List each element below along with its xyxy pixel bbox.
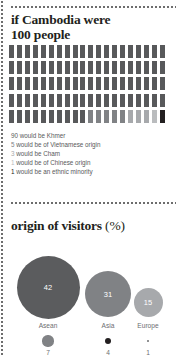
visitors-section-title: origin of visitors (%) (11, 218, 171, 233)
person-icon-khmer (65, 77, 70, 90)
bubble-category-label: Europe (108, 322, 176, 329)
person-icon-khmer (73, 45, 78, 58)
person-icon-khmer (152, 61, 157, 74)
person-icon-khmer (160, 45, 165, 58)
person-icon-khmer (112, 61, 117, 74)
person-icon-cham (136, 110, 141, 123)
person-icon-khmer (136, 45, 141, 58)
person-icon-khmer (17, 110, 22, 123)
infographic-page: if Cambodia were 100 people 90 would be … (0, 0, 176, 355)
page-title: if Cambodia were 100 people (11, 13, 161, 42)
person-icon-khmer (25, 61, 30, 74)
person-icon-khmer (65, 45, 70, 58)
page-title-line-2: 100 people (11, 28, 161, 43)
person-icon-khmer (73, 110, 78, 123)
person-icon-khmer (33, 61, 38, 74)
bubble-value-label: 42 (44, 283, 52, 292)
person-icon-khmer (120, 77, 125, 90)
person-icon-khmer (49, 94, 54, 107)
person-icon-khmer (25, 110, 30, 123)
person-icon-vietnamese-origin (104, 110, 109, 123)
person-icon-khmer (65, 110, 70, 123)
top-dotted-rule (10, 6, 176, 8)
pictogram-legend: 90 would be Khmer5 would be of Vietnames… (11, 131, 171, 176)
person-icon-khmer (80, 94, 85, 107)
person-icon-khmer (88, 45, 93, 58)
person-icon-khmer (120, 94, 125, 107)
small-bubble-value-label: 1 (108, 349, 176, 355)
person-icon-khmer (96, 77, 101, 90)
legend-item-label: would be Cham (15, 150, 61, 157)
person-icon-khmer (57, 61, 62, 74)
legend-item-label: would be an ethnic minority (15, 168, 93, 175)
person-icon-khmer (65, 61, 70, 74)
legend-item: 1 would be an ethnic minority (11, 167, 171, 176)
person-icon-khmer (160, 77, 165, 90)
person-icon-chinese-origin (152, 110, 157, 123)
person-icon-cham (144, 110, 149, 123)
person-icon-khmer (49, 61, 54, 74)
person-icon-khmer (73, 77, 78, 90)
person-icon-khmer (160, 94, 165, 107)
person-icon-khmer (88, 94, 93, 107)
person-icon-khmer (144, 94, 149, 107)
person-icon-khmer (152, 77, 157, 90)
person-icon-khmer (57, 110, 62, 123)
person-icon-khmer (73, 94, 78, 107)
legend-item-label: would be of Chinese origin (15, 159, 91, 166)
person-icon-khmer (41, 110, 46, 123)
person-icon-khmer (57, 77, 62, 90)
person-icon-khmer (80, 77, 85, 90)
person-icon-khmer (136, 94, 141, 107)
person-icon-khmer (128, 77, 133, 90)
person-icon-khmer (104, 61, 109, 74)
bubble-europe: 15 (134, 288, 163, 317)
person-icon-khmer (17, 94, 22, 107)
person-icon-cham (128, 110, 133, 123)
person-icon-khmer (41, 77, 46, 90)
person-icon-khmer (49, 110, 54, 123)
person-icon-khmer (80, 61, 85, 74)
person-icon-khmer (33, 77, 38, 90)
person-icon-khmer (120, 61, 125, 74)
person-icon-khmer (73, 61, 78, 74)
person-icon-khmer (96, 45, 101, 58)
person-icon-khmer (88, 61, 93, 74)
person-icon-khmer (9, 77, 14, 90)
bubble-value-label: 15 (144, 298, 152, 307)
visitors-title-unit: (%) (105, 218, 125, 233)
person-icon-ethnic-minority (160, 110, 165, 123)
person-icon-khmer (17, 77, 22, 90)
bubble-value-7 (42, 335, 53, 346)
person-icon-khmer (33, 110, 38, 123)
person-icon-khmer (112, 77, 117, 90)
person-icon-khmer (104, 77, 109, 90)
legend-item-number: 90 (11, 132, 18, 139)
person-icon-khmer (9, 94, 14, 107)
person-icon-khmer (160, 61, 165, 74)
person-icon-khmer (57, 94, 62, 107)
person-icon-khmer (9, 61, 14, 74)
person-icon-vietnamese-origin (88, 110, 93, 123)
legend-item: 3 would be Cham (11, 149, 171, 158)
page-title-line-1: if Cambodia were (11, 13, 161, 28)
person-icon-khmer (41, 94, 46, 107)
person-icon-vietnamese-origin (112, 110, 117, 123)
person-icon-vietnamese-origin (96, 110, 101, 123)
pictogram-grid (9, 45, 169, 126)
person-icon-khmer (96, 94, 101, 107)
visitors-title-text: origin of visitors (11, 218, 102, 233)
person-icon-khmer (17, 45, 22, 58)
person-icon-khmer (152, 94, 157, 107)
person-icon-khmer (25, 94, 30, 107)
person-icon-khmer (49, 45, 54, 58)
person-icon-khmer (41, 45, 46, 58)
person-icon-khmer (104, 94, 109, 107)
person-icon-khmer (49, 77, 54, 90)
person-icon-khmer (128, 61, 133, 74)
person-icon-khmer (57, 45, 62, 58)
person-icon-khmer (128, 94, 133, 107)
bubble-value-1 (147, 340, 149, 342)
person-icon-khmer (152, 45, 157, 58)
person-icon-khmer (80, 45, 85, 58)
